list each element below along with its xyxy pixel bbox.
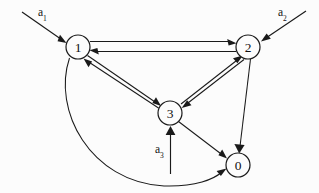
edge-1-to-0 <box>65 58 226 186</box>
edge-3-to-0-arrowhead <box>218 150 227 159</box>
edge-2-to-3 <box>182 60 244 109</box>
edge-3-to-0 <box>179 122 228 159</box>
input-label-a3: a3 <box>155 143 164 159</box>
edge-1-to-0-curve <box>65 58 222 186</box>
node-1[interactable]: 1 <box>66 35 90 59</box>
input-arrow-a3 <box>166 126 176 174</box>
node-2[interactable]: 2 <box>236 35 260 59</box>
edge-2-to-1 <box>90 48 237 55</box>
input-label-a1: a1 <box>38 6 47 22</box>
edge-3-to-1-line <box>88 62 159 109</box>
input-label-a3-subscript: 3 <box>160 150 164 159</box>
input-label-a2-subscript: 2 <box>283 13 287 22</box>
edge-1-to-2-arrowhead <box>227 39 236 46</box>
input-label-a1-subscript: 1 <box>43 13 47 22</box>
edge-3-to-2 <box>181 56 243 104</box>
edge-2-to-0-arrowhead <box>234 144 244 154</box>
input-arrow-a2-arrowhead <box>261 34 271 42</box>
edge-1-to-3-line <box>88 56 157 104</box>
input-arrow-a3-arrowhead <box>166 126 176 135</box>
edge-1-to-2 <box>90 39 237 46</box>
edge-3-to-2-line <box>181 59 239 104</box>
node-3[interactable]: 3 <box>158 101 182 125</box>
input-arrow-a1-arrowhead <box>58 35 67 43</box>
edge-2-to-0-line <box>240 59 251 148</box>
node-1-label: 1 <box>75 40 82 55</box>
node-3-label: 3 <box>167 106 174 121</box>
graph-svg: 1 2 3 0 a1 a2 a3 <box>0 0 319 193</box>
edge-2-to-1-arrowhead <box>90 48 99 55</box>
edge-2-to-0 <box>234 59 250 154</box>
diagram-canvas: 1 2 3 0 a1 a2 a3 <box>0 0 319 193</box>
edge-1-to-3 <box>88 56 162 107</box>
node-2-label: 2 <box>245 40 252 55</box>
edge-3-to-0-line <box>179 122 223 156</box>
node-0-label: 0 <box>235 158 242 173</box>
edge-2-to-3-line <box>186 60 244 105</box>
edge-3-to-1 <box>84 59 159 109</box>
input-label-a2: a2 <box>278 6 287 22</box>
edge-3-to-1-arrowhead <box>84 59 93 68</box>
node-0[interactable]: 0 <box>226 153 250 177</box>
